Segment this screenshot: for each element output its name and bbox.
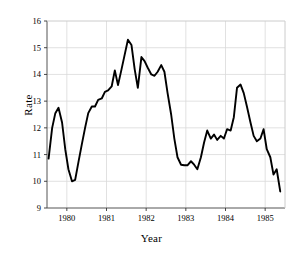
y-tick-label: 9 bbox=[37, 203, 41, 213]
rate-time-series-chart: 910111213141516 198019811982198319841985… bbox=[0, 0, 303, 257]
x-tick-label: 1983 bbox=[177, 213, 194, 223]
x-axis-title: Year bbox=[0, 232, 303, 244]
x-tick-label: 1981 bbox=[98, 213, 115, 223]
y-tick-label: 16 bbox=[33, 16, 42, 26]
x-axis-ticks: 198019811982198319841985 bbox=[58, 208, 273, 223]
y-tick-label: 11 bbox=[33, 150, 41, 160]
rate-line bbox=[49, 40, 281, 192]
y-tick-label: 15 bbox=[33, 43, 42, 53]
x-tick-label: 1985 bbox=[257, 213, 274, 223]
y-axis-title: Rate bbox=[22, 75, 34, 135]
x-tick-label: 1982 bbox=[138, 213, 155, 223]
chart-canvas: 910111213141516 198019811982198319841985 bbox=[0, 0, 303, 257]
y-tick-label: 10 bbox=[33, 176, 42, 186]
data-series-group bbox=[49, 40, 281, 192]
y-axis-ticks: 910111213141516 bbox=[33, 16, 48, 213]
x-tick-label: 1984 bbox=[217, 213, 235, 223]
x-tick-label: 1980 bbox=[58, 213, 75, 223]
